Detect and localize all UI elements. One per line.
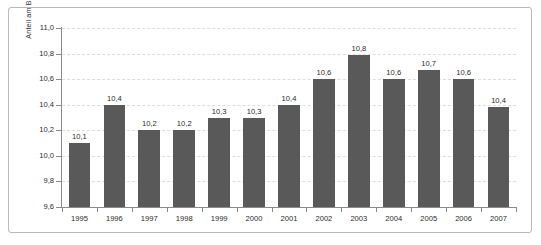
y-axis-tick-label: 9,8 <box>28 177 54 185</box>
bar <box>453 79 475 207</box>
bar <box>348 55 370 207</box>
bar <box>208 118 230 208</box>
x-axis-tick <box>272 207 273 212</box>
x-axis-tick-label: 2003 <box>341 214 376 223</box>
x-axis-tick-label: 1996 <box>97 214 132 223</box>
bar-value-label: 10,6 <box>376 68 411 77</box>
y-axis-title: Anteil am BIP in Prozent <box>22 0 36 68</box>
bar <box>278 105 300 207</box>
x-axis-tick <box>97 207 98 212</box>
x-axis-tick <box>237 207 238 212</box>
y-axis-tick-label: 11,0 <box>28 24 54 32</box>
x-axis-tick-label: 1997 <box>132 214 167 223</box>
bar-value-label: 10,3 <box>202 107 237 116</box>
bar <box>173 130 195 207</box>
x-axis-tick-label: 2000 <box>237 214 272 223</box>
bar <box>104 105 126 207</box>
chart-figure: Anteil am BIP in Prozent 9,69,810,010,21… <box>0 0 541 245</box>
x-axis-tick <box>516 207 517 212</box>
bar-value-label: 10,4 <box>272 94 307 103</box>
y-axis-tick-label: 10,6 <box>28 75 54 83</box>
x-axis-tick-label: 2007 <box>481 214 516 223</box>
x-axis-tick <box>62 207 63 212</box>
x-axis-tick <box>306 207 307 212</box>
bar-value-label: 10,4 <box>97 94 132 103</box>
x-axis-tick <box>167 207 168 212</box>
x-axis-tick <box>411 207 412 212</box>
bar-value-label: 10,4 <box>481 96 516 105</box>
bar <box>69 143 91 207</box>
y-axis-tick-label: 10,0 <box>28 152 54 160</box>
bar-value-label: 10,8 <box>341 44 376 53</box>
x-axis-tick-label: 2001 <box>272 214 307 223</box>
x-axis-tick <box>341 207 342 212</box>
bars-group: 10,110,410,210,210,310,310,410,610,810,6… <box>62 28 516 207</box>
bar <box>488 107 510 207</box>
bar-value-label: 10,2 <box>132 119 167 128</box>
bar <box>418 70 440 207</box>
x-axis-tick <box>202 207 203 212</box>
x-axis-tick-label: 1999 <box>202 214 237 223</box>
x-axis-tick <box>446 207 447 212</box>
y-axis-tick-label: 10,4 <box>28 101 54 109</box>
x-axis-tick-label: 2006 <box>446 214 481 223</box>
x-axis-line <box>61 207 516 208</box>
bar-value-label: 10,2 <box>167 119 202 128</box>
bar-value-label: 10,1 <box>62 132 97 141</box>
x-axis-tick-label: 2002 <box>306 214 341 223</box>
x-axis-tick-label: 2004 <box>376 214 411 223</box>
bar <box>383 79 405 207</box>
y-axis-tick-label: 9,6 <box>28 203 54 211</box>
x-axis-tick <box>132 207 133 212</box>
bar <box>243 118 265 208</box>
x-axis-tick <box>481 207 482 212</box>
bar-value-label: 10,6 <box>306 68 341 77</box>
x-axis-tick-label: 1995 <box>62 214 97 223</box>
y-axis-tick-label: 10,8 <box>28 50 54 58</box>
y-axis-tick-label: 10,2 <box>28 126 54 134</box>
x-axis-tick <box>376 207 377 212</box>
x-axis-tick-label: 2005 <box>411 214 446 223</box>
bar <box>313 79 335 207</box>
bar <box>138 130 160 207</box>
bar-value-label: 10,3 <box>237 107 272 116</box>
bar-value-label: 10,6 <box>446 68 481 77</box>
x-axis-tick-label: 1998 <box>167 214 202 223</box>
bar-value-label: 10,7 <box>411 59 446 68</box>
